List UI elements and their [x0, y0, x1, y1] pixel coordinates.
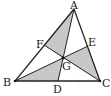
triangle-diagram: A B C D E F G: [0, 0, 111, 96]
label-f: F: [36, 38, 44, 51]
label-e: E: [88, 36, 96, 49]
shaded-region-afg: [44, 9, 74, 58]
label-c: C: [102, 77, 110, 90]
label-a: A: [69, 0, 79, 12]
point-b-dot: [14, 80, 16, 82]
label-b: B: [3, 76, 11, 89]
label-g: G: [62, 60, 71, 73]
tick-mark-dc: [77, 80, 79, 82]
label-d: D: [53, 83, 62, 96]
tick-mark-bd: [35, 80, 37, 82]
point-c-dot: [99, 80, 101, 82]
